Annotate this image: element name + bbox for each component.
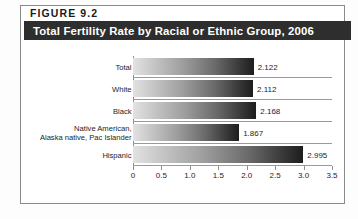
x-axis: 00.51.01.52.02.53.03.5 <box>133 166 332 188</box>
x-axis-tick <box>133 166 134 170</box>
bar-value-label: 2.122 <box>258 62 278 71</box>
bar-row-label: Hispanic <box>102 151 131 160</box>
chart: Total2.122White2.112Black2.168Native Ame… <box>24 48 342 193</box>
plot-area: Total2.122White2.112Black2.168Native Ame… <box>24 56 338 166</box>
figure-number-label: FIGURE 9.2 <box>30 7 98 19</box>
bar <box>133 124 239 141</box>
x-axis-tick <box>218 166 219 170</box>
x-axis-tick-label: 0.5 <box>156 171 167 180</box>
bar-value-label: 2.168 <box>260 106 280 115</box>
x-axis-tick <box>275 166 276 170</box>
bar-track: 2.168 <box>133 102 332 119</box>
bar-row: White2.112 <box>24 78 338 100</box>
bar-row: Total2.122 <box>24 56 338 78</box>
bar-row: Black2.168 <box>24 100 338 122</box>
figure-title-banner: Total Fertility Rate by Racial or Ethnic… <box>24 21 351 40</box>
bar-row: Hispanic2.995 <box>24 144 338 166</box>
x-axis-tick-label: 2.5 <box>270 171 281 180</box>
bar-value-label: 1.867 <box>243 128 263 137</box>
figure-container: FIGURE 9.2 Total Fertility Rate by Racia… <box>0 0 358 219</box>
bar <box>133 102 256 119</box>
bar-row-label: Native American,Alaska native, Pac Islan… <box>28 124 132 142</box>
bar-track: 2.112 <box>133 80 332 97</box>
bar-row-label: Total <box>115 63 131 72</box>
figure-title: Total Fertility Rate by Racial or Ethnic… <box>33 25 314 37</box>
bar-value-label: 2.112 <box>257 84 276 93</box>
bar-track: 1.867 <box>133 124 332 141</box>
bar-row-label: Black <box>113 107 132 116</box>
x-axis-tick-label: 1.0 <box>184 171 195 180</box>
bar <box>133 146 303 163</box>
bar-row: Native American,Alaska native, Pac Islan… <box>24 122 338 144</box>
x-axis-tick-label: 2.0 <box>241 171 252 180</box>
x-axis-tick <box>161 166 162 170</box>
bar <box>133 58 254 75</box>
x-axis-tick-label: 3.5 <box>326 171 337 180</box>
x-axis-tick-label: 3.0 <box>298 171 309 180</box>
x-axis-tick-label: 0 <box>131 171 135 180</box>
bar-track: 2.995 <box>133 146 332 163</box>
bar-track: 2.122 <box>133 58 332 75</box>
x-axis-tick <box>304 166 305 170</box>
bar <box>133 80 253 97</box>
x-axis-tick-label: 1.5 <box>213 171 224 180</box>
x-axis-tick <box>332 166 333 170</box>
x-axis-tick <box>247 166 248 170</box>
bar-row-label: White <box>112 85 131 94</box>
bar-value-label: 2.995 <box>307 150 327 159</box>
x-axis-tick <box>190 166 191 170</box>
